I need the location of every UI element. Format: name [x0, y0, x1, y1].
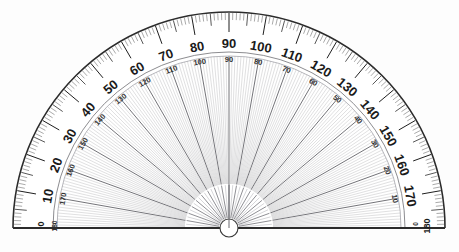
- right-inner-endpoint-label: 0: [412, 222, 419, 226]
- outer-scale-label: 10: [39, 188, 56, 205]
- inner-scale-label: 80: [253, 57, 263, 67]
- outer-scale-label: 80: [189, 38, 206, 55]
- protractor-image: 1020304050607080901001101201301401501601…: [0, 0, 459, 252]
- protractor-canvas: 1020304050607080901001101201301401501601…: [0, 0, 459, 252]
- left-outer-endpoint-label: 0: [36, 221, 46, 226]
- right-outer-endpoint-label: 180: [422, 218, 432, 233]
- left-inner-endpoint-label: 180: [51, 220, 58, 231]
- inner-scale-label: 90: [225, 55, 233, 64]
- outer-scale-label: 90: [222, 36, 236, 51]
- inner-scale-label: 10: [390, 194, 400, 204]
